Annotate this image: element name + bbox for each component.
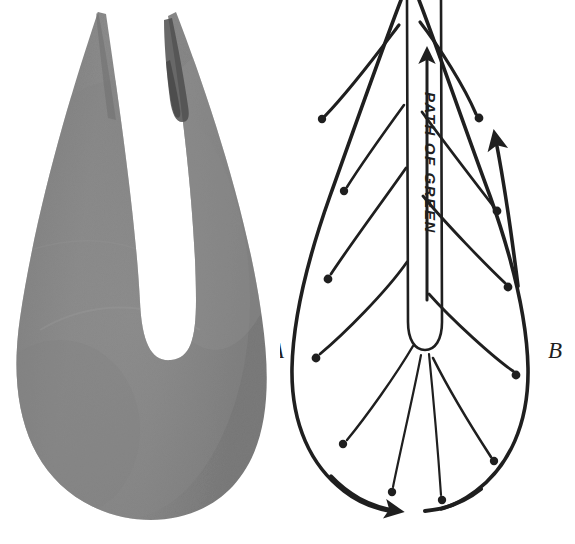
- vein-right-5: [433, 358, 491, 457]
- vein-left-4: [320, 262, 407, 354]
- vein-right-5-bulb: [490, 457, 498, 465]
- vein-left-3: [331, 168, 406, 274]
- vein-left-6-bulb: [388, 488, 396, 496]
- vein-left-5: [347, 346, 413, 440]
- vein-left-4-bulb: [312, 354, 321, 363]
- vein-right-4-bulb: [512, 371, 521, 380]
- vein-left-1-bulb: [318, 115, 326, 123]
- vein-left-3-bulb: [324, 275, 333, 284]
- leaf-photograph-panel: [0, 0, 280, 544]
- label-margin-b: B: [548, 338, 562, 363]
- vein-left-6: [393, 355, 421, 487]
- vein-left-2-bulb: [340, 187, 348, 195]
- label-margin-a: A: [280, 338, 285, 363]
- vein-right-6: [429, 354, 441, 495]
- vein-right-6-bulb: [438, 496, 446, 504]
- vein-left-2: [347, 105, 404, 187]
- leaf-outline-left: [292, 0, 401, 511]
- midrib-caption-group: PATH OF GREEN: [422, 92, 439, 234]
- leaf-vein-diagram-svg: PATH OF GREEN A B: [280, 0, 575, 544]
- arrow-right-leaf-base[interactable]: [331, 476, 398, 511]
- figure-root: PATH OF GREEN A B: [0, 0, 575, 544]
- leaf-photograph-svg: [0, 0, 280, 544]
- leaf-vein-diagram-panel: PATH OF GREEN A B: [280, 0, 575, 544]
- vein-right-3-bulb: [504, 283, 513, 292]
- vein-right-2-bulb: [493, 207, 502, 216]
- vein-left-5-bulb: [339, 440, 347, 448]
- vein-right-1-bulb: [475, 114, 484, 123]
- leaf-silhouette: [0, 12, 280, 520]
- midrib-caption: PATH OF GREEN: [422, 92, 439, 234]
